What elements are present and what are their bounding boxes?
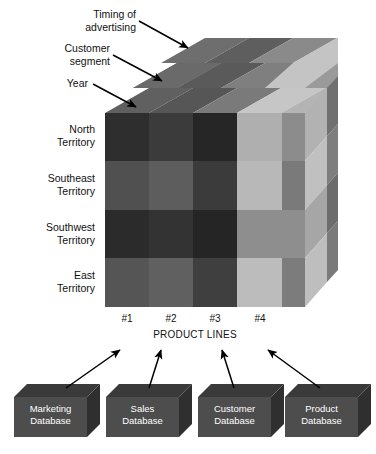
front-cell-r2-c4: [237, 161, 282, 210]
front-cell-r3-c4: [237, 210, 282, 258]
side-cell-r4-d1: [282, 258, 305, 307]
front-cell-r4-c2: [149, 258, 193, 307]
database-box-product[interactable]: [285, 384, 371, 437]
axis-title-product-lines: PRODUCT LINES: [125, 329, 265, 340]
db-front-sales: [106, 397, 179, 437]
dimension-label-customer-segment: Customer segment: [10, 42, 110, 67]
front-cell-r3-c3: [193, 210, 237, 258]
row-label-southwest-territory: Southwest Territory: [0, 221, 95, 246]
database-box-sales[interactable]: [106, 384, 192, 437]
db-front-marketing: [14, 397, 87, 437]
front-cell-r4-c3: [193, 258, 237, 307]
front-cell-r2-c1: [105, 161, 149, 210]
front-cell-r2-c3: [193, 161, 237, 210]
db-top-marketing: [14, 384, 100, 397]
front-cell-r1-c2: [149, 113, 193, 161]
db-top-product: [285, 384, 371, 397]
side-cell-r3-d1: [282, 210, 305, 258]
column-label-product-line-3: #3: [195, 313, 235, 324]
front-cell-r4-c1: [105, 258, 149, 307]
column-label-product-line-2: #2: [151, 313, 191, 324]
db-front-customer: [198, 397, 271, 437]
front-cell-r1-c1: [105, 113, 149, 161]
side-cell-r1-d1: [282, 113, 305, 161]
dimension-label-timing-of-advertising: Timing of advertising: [18, 8, 136, 33]
db-front-product: [285, 397, 358, 437]
column-label-product-line-1: #1: [107, 313, 147, 324]
database-box-marketing[interactable]: [14, 384, 100, 437]
database-box-customer[interactable]: [198, 384, 284, 437]
front-cell-r3-c2: [149, 210, 193, 258]
side-cell-r2-d1: [282, 161, 305, 210]
front-cell-r1-c4: [237, 113, 282, 161]
row-label-southeast-territory: Southeast Territory: [0, 172, 95, 197]
dimension-label-year: Year: [10, 77, 88, 90]
front-cell-r2-c2: [149, 161, 193, 210]
front-cell-r3-c1: [105, 210, 149, 258]
row-label-north-territory: North Territory: [0, 123, 95, 148]
front-cell-r4-c4: [237, 258, 282, 307]
cube-front-face: [105, 113, 282, 307]
row-label-east-territory: East Territory: [0, 269, 95, 294]
column-label-product-line-4: #4: [240, 313, 280, 324]
front-cell-r1-c3: [193, 113, 237, 161]
db-top-customer: [198, 384, 284, 397]
